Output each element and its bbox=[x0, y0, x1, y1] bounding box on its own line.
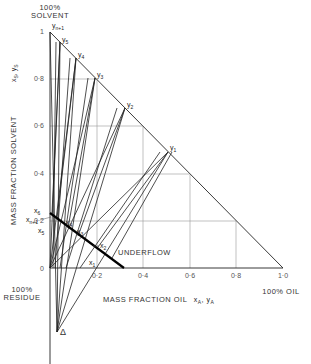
svg-text:yn+1: yn+1 bbox=[52, 22, 64, 31]
delta-point-label: Δ bbox=[60, 327, 66, 337]
svg-text:x5: x5 bbox=[38, 227, 45, 236]
svg-text:0·4: 0·4 bbox=[138, 272, 148, 279]
svg-text:0·6: 0·6 bbox=[34, 122, 44, 129]
svg-text:1: 1 bbox=[40, 28, 44, 35]
x-axis-label: MASS FRACTION OIL xA, yA bbox=[103, 295, 214, 305]
svg-text:y5: y5 bbox=[62, 36, 69, 45]
bottom-left-residue: RESIDUE bbox=[4, 293, 41, 302]
bottom-right-oil: 100% OIL bbox=[262, 287, 299, 296]
svg-text:y3: y3 bbox=[97, 71, 104, 80]
svg-text:0: 0 bbox=[40, 265, 44, 272]
svg-text:0·6: 0·6 bbox=[185, 272, 195, 279]
svg-text:x1: x1 bbox=[89, 259, 96, 268]
ternary-diagram: 1 0·8 0·6 0·4 0·2 0 0·2 0·4 0·6 0·8 1·0 … bbox=[0, 0, 311, 364]
y-axis-label: MASS FRACTION SOLVENT bbox=[9, 116, 18, 225]
top-label-solvent: SOLVENT bbox=[31, 11, 69, 20]
svg-text:y2: y2 bbox=[127, 101, 134, 110]
svg-text:y1: y1 bbox=[170, 144, 177, 153]
x-axis-ticks: 0·2 0·4 0·6 0·8 1·0 bbox=[92, 272, 288, 279]
svg-text:0·4: 0·4 bbox=[34, 170, 44, 177]
svg-text:1·0: 1·0 bbox=[278, 272, 288, 279]
svg-text:x6: x6 bbox=[34, 207, 41, 216]
svg-text:0·2: 0·2 bbox=[92, 272, 102, 279]
underflow-label: UNDERFLOW bbox=[118, 248, 171, 257]
svg-text:0·8: 0·8 bbox=[231, 272, 241, 279]
y-axis-symbol: xS, yS bbox=[10, 64, 19, 82]
svg-text:0·8: 0·8 bbox=[34, 75, 44, 82]
svg-text:y4: y4 bbox=[78, 51, 85, 60]
triangle-frame bbox=[50, 32, 283, 364]
tie-lines bbox=[50, 32, 172, 332]
